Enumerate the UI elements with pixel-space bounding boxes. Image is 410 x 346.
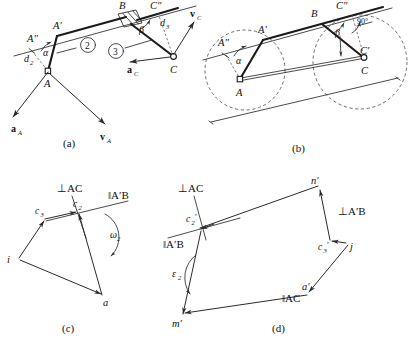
panel-a-vector-aA xyxy=(13,72,48,117)
panel-d-caption: (d) xyxy=(272,322,285,335)
panel-a-link-2 xyxy=(48,36,57,71)
panel-a-bar-ApB xyxy=(57,17,126,36)
panel-a-vector-aC xyxy=(130,57,170,62)
panel-b: A″ A′ A B C C′ C″ α β 90° (b) xyxy=(203,0,407,155)
panel-d-edge-c2p-np xyxy=(200,186,318,228)
panel-a-balloon-2-text: 2 xyxy=(85,41,90,51)
svg-text:2: 2 xyxy=(30,59,34,66)
panel-d-label-a-prime: a′ xyxy=(302,281,310,292)
panel-a-label-alpha: α xyxy=(43,47,49,58)
panel-b-label-90: 90° xyxy=(357,17,368,26)
svg-text:c: c xyxy=(73,199,78,209)
svg-text:′: ′ xyxy=(327,240,330,250)
panel-a-label-A-prime: A′ xyxy=(52,20,62,31)
panel-a-label-A: A xyxy=(43,78,51,89)
panel-c-label-par-ApB: ‖A′B xyxy=(108,189,129,201)
panel-d-vector-j-c3p xyxy=(332,241,346,243)
panel-a-label-B: B xyxy=(119,0,126,11)
svg-text:A: A xyxy=(106,137,111,144)
svg-text:v: v xyxy=(100,131,105,142)
panel-a-label-beta: β xyxy=(138,24,144,35)
panel-d-label-par-AC: ‖AC xyxy=(282,292,300,304)
svg-text:a: a xyxy=(11,123,16,134)
panel-a-leader-link3 xyxy=(125,40,152,48)
svg-text:ω: ω xyxy=(110,229,117,240)
panel-d-label-par-ApB: ‖A′B xyxy=(163,238,184,250)
panel-c-label-omega2: ω 2 xyxy=(110,229,121,242)
panel-b-label-B: B xyxy=(311,8,318,19)
panel-b-label-alpha: α xyxy=(236,55,242,66)
panel-a-label-d3: d 3 xyxy=(160,17,170,30)
panel-b-label-C: C xyxy=(361,65,369,76)
panel-d: ⊥AC ‖A′B ⊥A′B ‖AC c 2 ′ c 3 ′ n′ j a′ m′… xyxy=(163,175,366,335)
panel-a-balloon-3-text: 3 xyxy=(113,47,118,57)
panel-a-caption: (a) xyxy=(63,137,76,150)
panel-c-label-a: a xyxy=(103,297,108,308)
panel-d-label-j: j xyxy=(348,241,353,252)
panel-d-vector-c2p-mp xyxy=(183,231,201,314)
panel-b-label-A: A xyxy=(235,87,243,98)
panel-a-guide-line xyxy=(14,6,196,56)
panel-b-base-AC-upper xyxy=(241,56,363,78)
panel-b-caption: (b) xyxy=(292,142,305,155)
panel-b-base-AC-lower xyxy=(241,59,363,81)
panel-a-label-aC: a C xyxy=(127,64,139,77)
panel-b-label-A-dprime: A″ xyxy=(217,37,229,48)
panel-c-label-perp-AC: ⊥AC xyxy=(57,182,82,194)
panel-d-label-perp-AC: ⊥AC xyxy=(178,182,203,194)
panel-c-direction-line-parApB xyxy=(46,201,128,221)
panel-c-vector-a-c2 xyxy=(79,214,102,295)
panel-b-label-A-prime: A′ xyxy=(257,24,267,35)
panel-a-label-C-dprime: C″ xyxy=(150,0,162,11)
figure-canvas: A″ A′ A B C C″ α β d 2 d 3 2 3 a A v xyxy=(0,0,410,346)
panel-a-label-aA: a A xyxy=(11,123,22,136)
svg-text:′: ′ xyxy=(195,212,198,222)
panel-c-vector-i-c3 xyxy=(19,221,44,258)
svg-text:2: 2 xyxy=(178,274,182,281)
panel-a-label-C: C xyxy=(170,64,178,75)
panel-c-vector-i-a xyxy=(20,260,101,294)
svg-text:c: c xyxy=(318,242,323,252)
panel-d-label-epsilon2: ε 2 xyxy=(172,268,182,281)
panel-c-label-c3: c 3 xyxy=(35,206,45,218)
svg-text:c: c xyxy=(186,214,191,224)
panel-c-vector-c3-c2 xyxy=(45,212,76,219)
panel-c: ⊥AC ‖A′B c 2 c 3 i a ω 2 (c) xyxy=(7,182,129,335)
panel-a-joint-C xyxy=(171,54,177,60)
panel-d-label-perp-ApB: ⊥A′B xyxy=(338,205,366,217)
svg-text:C: C xyxy=(197,14,202,21)
panel-a-label-vC: v C xyxy=(190,8,202,21)
svg-text:c: c xyxy=(35,206,40,216)
panel-d-vector-c3p-np xyxy=(320,190,330,240)
panel-a-label-vA: v A xyxy=(100,131,111,144)
panel-d-label-c2-prime: c 2 ′ xyxy=(186,212,198,226)
panel-a-vector-vC xyxy=(174,22,194,54)
panel-c-label-c2: c 2 xyxy=(73,199,83,211)
panel-b-link-ApA xyxy=(240,40,263,79)
svg-text:2: 2 xyxy=(117,235,121,242)
svg-text:C: C xyxy=(134,70,139,77)
panel-c-caption: (c) xyxy=(62,322,75,335)
panel-b-label-C-dprime: C″ xyxy=(336,0,348,11)
svg-text:3: 3 xyxy=(40,211,45,218)
panel-c-label-i: i xyxy=(7,254,10,265)
panel-d-label-m-prime: m′ xyxy=(172,318,183,329)
svg-text:ε: ε xyxy=(172,268,176,279)
panel-b-tangent-line xyxy=(211,78,398,122)
panel-a-label-d2: d 2 xyxy=(24,53,34,66)
panel-a-vector-vA xyxy=(49,73,105,124)
panel-b-pivot-A xyxy=(237,76,242,81)
panel-d-label-n-prime: n′ xyxy=(311,175,319,186)
panel-a-tick-Adprime xyxy=(29,49,35,54)
svg-text:a: a xyxy=(127,64,132,75)
panel-a: A″ A′ A B C C″ α β d 2 d 3 2 3 a A v xyxy=(11,0,202,150)
panel-b-label-C-prime: C′ xyxy=(360,45,370,56)
svg-text:A: A xyxy=(17,129,22,136)
svg-text:v: v xyxy=(190,8,195,19)
panel-d-vector-j-ap xyxy=(309,245,348,292)
svg-text:3: 3 xyxy=(165,23,170,30)
figure-page: A″ A′ A B C C″ α β d 2 d 3 2 3 a A v xyxy=(0,0,410,346)
panel-a-label-A-dprime: A″ xyxy=(26,33,38,44)
panel-a-leader-link2 xyxy=(57,48,76,53)
panel-b-label-beta: β xyxy=(334,27,340,38)
